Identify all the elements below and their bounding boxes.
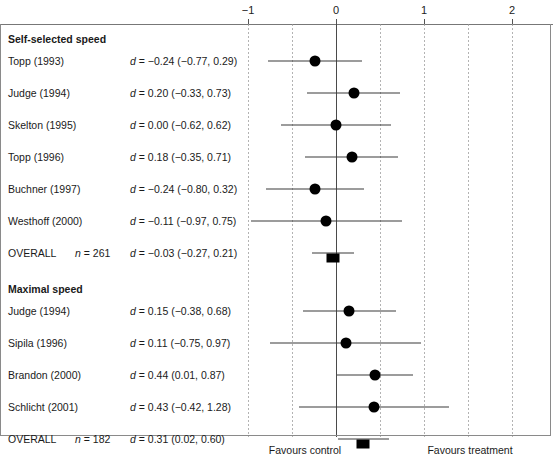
study-label: Topp (1993) <box>8 56 64 67</box>
favours-control-label: Favours control <box>269 444 341 456</box>
x-tick-label: 0 <box>333 4 339 16</box>
effect-size-label: d = 0.43 (−0.42, 1.28) <box>130 402 231 413</box>
study-label: Judge (1994) <box>8 88 70 99</box>
study-label: OVERALL <box>8 434 56 445</box>
study-label: Buchner (1997) <box>8 184 80 195</box>
effect-size-label: d = 0.31 (0.02, 0.60) <box>130 434 225 445</box>
effect-size-label: d = −0.24 (−0.77, 0.29) <box>130 56 237 67</box>
plot-frame <box>0 24 551 436</box>
study-label: OVERALL <box>8 248 56 259</box>
effect-size-label: d = 0.00 (−0.62, 0.62) <box>130 120 231 131</box>
effect-size-label: d = 0.44 (0.01, 0.87) <box>130 370 225 381</box>
study-label: Schlicht (2001) <box>8 402 78 413</box>
effect-size-label: d = 0.15 (−0.38, 0.68) <box>130 306 231 317</box>
x-tick-label: 2 <box>509 4 515 16</box>
effect-size-label: d = −0.11 (−0.97, 0.75) <box>130 216 236 227</box>
study-label: Topp (1996) <box>8 152 64 163</box>
study-label: Sipila (1996) <box>8 338 67 349</box>
study-label: Brandon (2000) <box>8 370 81 381</box>
pooled-effect-marker <box>357 440 370 449</box>
sample-size-label: n = 182 <box>75 434 110 445</box>
effect-size-label: d = 0.20 (−0.33, 0.73) <box>130 88 231 99</box>
effect-size-label: d = 0.18 (−0.35, 0.71) <box>130 152 231 163</box>
x-tick-label: 1 <box>421 4 427 16</box>
study-label: Judge (1994) <box>8 306 70 317</box>
effect-size-label: d = −0.03 (−0.27, 0.21) <box>130 248 237 259</box>
group-heading: Self-selected speed <box>8 34 106 45</box>
group-heading: Maximal speed <box>8 284 83 295</box>
forest-plot: −1012 Self-selected speedTopp (1993)d = … <box>0 0 557 461</box>
favours-treatment-label: Favours treatment <box>427 444 512 456</box>
sample-size-label: n = 261 <box>75 248 110 259</box>
x-tick-label: −1 <box>242 4 255 16</box>
study-label: Westhoff (2000) <box>8 216 82 227</box>
effect-size-label: d = −0.24 (−0.80, 0.32) <box>130 184 237 195</box>
study-label: Skelton (1995) <box>8 120 76 131</box>
effect-size-label: d = 0.11 (−0.75, 0.97) <box>130 338 230 349</box>
x-axis-header: −1012 <box>0 0 557 25</box>
